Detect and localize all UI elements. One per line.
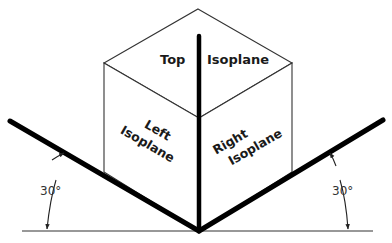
left-angle-arc-upper	[52, 153, 64, 160]
right-angle-arc-upper	[330, 153, 336, 166]
right-angle-label: 30°	[332, 184, 353, 198]
isoplane-diagram: 30° 30° Top Isoplane Left Isoplane Right…	[0, 0, 392, 243]
diagram-svg: 30° 30° Top Isoplane Left Isoplane Right…	[0, 0, 392, 243]
left-angle-label: 30°	[40, 184, 61, 198]
top-isoplane-label-word1: Top	[160, 52, 185, 67]
top-isoplane-label-word2: Isoplane	[207, 52, 269, 67]
